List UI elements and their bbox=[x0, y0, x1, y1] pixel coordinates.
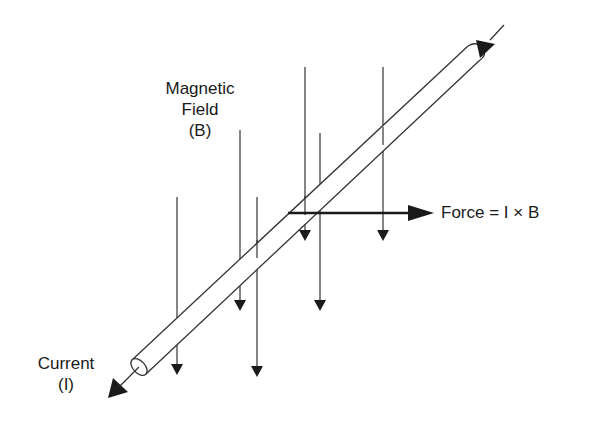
magnetic-field-label-line3: (B) bbox=[150, 120, 250, 141]
magnetic-field-label-line2: Field bbox=[150, 99, 250, 120]
magnetic-field-label-line1: Magnetic bbox=[150, 78, 250, 99]
current-label: Current (I) bbox=[26, 353, 106, 395]
force-label: Force = I × B bbox=[441, 202, 539, 223]
magnetic-field-label: Magnetic Field (B) bbox=[150, 78, 250, 141]
field-line-5 bbox=[314, 133, 326, 311]
current-out-line bbox=[120, 367, 139, 386]
field-line-3 bbox=[251, 197, 263, 377]
force-arrowhead bbox=[408, 205, 434, 221]
current-in-line bbox=[490, 25, 504, 40]
current-label-line1: Current bbox=[26, 353, 106, 374]
current-label-line2: (I) bbox=[26, 374, 106, 395]
